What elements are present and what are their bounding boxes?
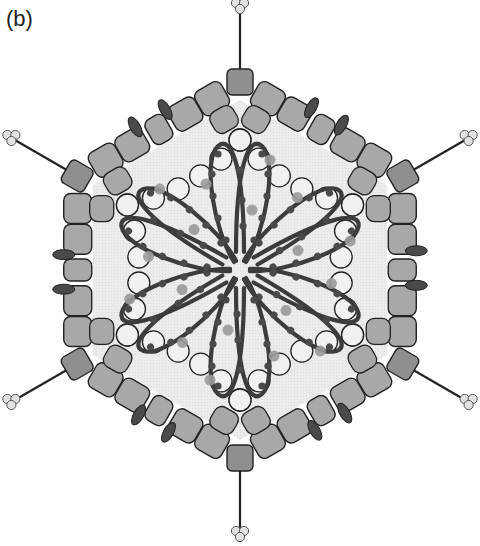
hexon: [388, 316, 416, 346]
dna-bead: [239, 222, 246, 229]
dna-bead: [236, 366, 243, 373]
hexon-inner: [366, 196, 390, 222]
hexon-body: [388, 316, 416, 346]
dna-bead: [214, 318, 221, 325]
core-protein: [268, 165, 290, 187]
knob-lobe: [464, 136, 473, 145]
minor-protein: [53, 284, 75, 294]
dna-bead: [258, 318, 265, 325]
hexon-body: [64, 194, 92, 224]
knob-lobe: [7, 136, 16, 145]
hexon-inner: [90, 196, 114, 222]
hexon-body: [366, 196, 390, 222]
dna-bound-protein: [247, 205, 258, 216]
hexon: [64, 259, 92, 281]
dna-bead: [214, 150, 221, 157]
dna-bead: [236, 166, 243, 173]
dna-bead: [234, 336, 241, 343]
penton-body: [227, 445, 253, 471]
dna-bead: [264, 362, 271, 369]
dna-bead: [238, 196, 245, 203]
dna-bound-protein: [201, 179, 212, 190]
fiber-knob: [460, 130, 477, 145]
core-protein: [190, 353, 212, 375]
dna-bead: [250, 296, 257, 303]
hexon-body: [64, 316, 92, 346]
dna-bead: [209, 340, 216, 347]
virus-diagram: [0, 0, 480, 546]
minor-protein-body: [53, 284, 75, 294]
minor-protein-body: [405, 246, 427, 256]
knob-lobe: [464, 400, 473, 409]
knob-lobe: [235, 4, 244, 13]
dna-bound-protein: [205, 375, 216, 386]
hexon: [388, 194, 416, 224]
dna-bead: [208, 170, 215, 177]
hexon: [64, 194, 92, 224]
knob-lobe: [235, 532, 244, 541]
core-protein: [229, 129, 251, 151]
dna-bead: [258, 214, 265, 221]
hexon: [64, 316, 92, 346]
minor-protein-body: [405, 280, 427, 290]
dna-bead: [214, 382, 221, 389]
minor-protein: [53, 250, 75, 260]
minor-protein-body: [53, 250, 75, 260]
dna-bead: [264, 170, 271, 177]
hexon: [388, 259, 416, 281]
dna-bead: [233, 310, 240, 317]
hexon-body: [64, 259, 92, 281]
core-protein: [342, 194, 364, 216]
dna-bead: [214, 214, 221, 221]
dna-bead: [208, 362, 215, 369]
dna-bound-protein: [269, 351, 280, 362]
knob-lobe: [7, 400, 16, 409]
hexon-body: [388, 194, 416, 224]
core-protein: [116, 194, 138, 216]
hexon-body: [90, 318, 114, 344]
fiber-knob: [231, 0, 248, 14]
dna-bead: [263, 340, 270, 347]
hexon-body: [90, 196, 114, 222]
core-protein: [116, 324, 138, 346]
hexon-inner: [366, 318, 390, 344]
fiber-knob: [3, 130, 20, 145]
fiber-knob: [460, 394, 477, 409]
minor-protein: [405, 246, 427, 256]
penton-base: [227, 445, 253, 471]
hexon-body: [366, 318, 390, 344]
fiber-knob: [3, 394, 20, 409]
dna-bead: [263, 192, 270, 199]
penton-body: [227, 69, 253, 95]
dna-bead: [209, 192, 216, 199]
core-protein: [342, 324, 364, 346]
minor-protein: [405, 280, 427, 290]
dna-bound-protein: [223, 325, 234, 336]
hexon-inner: [90, 318, 114, 344]
core-protein: [229, 389, 251, 411]
dna-bead: [258, 150, 265, 157]
dna-bead: [258, 382, 265, 389]
dna-bound-protein: [265, 155, 276, 166]
penton-base: [227, 69, 253, 95]
hexon-body: [388, 259, 416, 281]
fiber-knob: [231, 526, 248, 541]
